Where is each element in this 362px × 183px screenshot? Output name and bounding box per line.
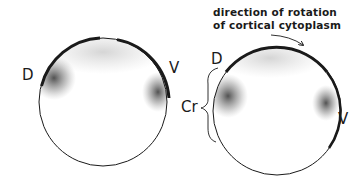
left-label-dorsal: D (22, 66, 34, 84)
right-label-crescent: Cr (181, 98, 198, 116)
caption-line-1: direction of rotation (213, 6, 337, 19)
left-stipple (32, 30, 174, 112)
right-label-ventral: V (338, 110, 348, 128)
left-embryo (32, 30, 174, 166)
right-label-dorsal: D (211, 50, 223, 68)
right-stipple (208, 38, 340, 121)
rotation-arrow-icon (271, 35, 303, 45)
caption-line-2: of cortical cytoplasm (213, 19, 341, 32)
left-label-ventral: V (169, 59, 179, 77)
